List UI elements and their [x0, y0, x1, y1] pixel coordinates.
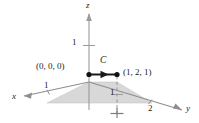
figure-3d-line-segment: x y z 1 2 1 1 (0, 0, 0) (1, 2, 1) C	[0, 0, 199, 123]
z-axis-label: z	[86, 1, 90, 10]
y-axis-tick-label-2: 2	[148, 104, 153, 113]
x-axis-arrowhead	[24, 93, 32, 99]
x-axis-label: x	[12, 92, 16, 101]
y-axis-label: y	[186, 104, 190, 113]
end-point-dot	[114, 72, 119, 77]
origin-point-dot	[86, 72, 91, 77]
z-axis-arrowhead	[86, 13, 92, 21]
x-axis-tick-label-1: 1	[44, 81, 49, 90]
z-axis-tick-label-1: 1	[72, 38, 77, 47]
end-point-label: (1, 2, 1)	[123, 68, 152, 77]
curve-label-c: C	[100, 56, 106, 66]
drop-tick-label-1: 1	[110, 88, 115, 97]
y-axis-arrowhead	[173, 104, 182, 111]
origin-point-label: (0, 0, 0)	[36, 62, 65, 71]
curve-c-arrowhead	[101, 71, 109, 78]
